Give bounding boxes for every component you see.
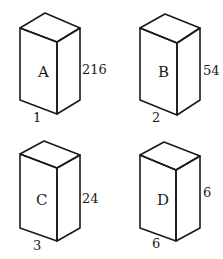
box-c-letter: C (36, 191, 47, 209)
box-b-height-dimension: 54 (203, 63, 220, 78)
box-a-side-face (57, 28, 80, 114)
box-a: A2161 (20, 13, 107, 125)
boxes-diagram: A2161B542C243D66 (0, 0, 223, 259)
box-d-base-dimension: 6 (152, 236, 160, 251)
box-b: B542 (140, 14, 220, 125)
box-c-height-dimension: 24 (82, 191, 99, 206)
box-b-top-face (140, 14, 200, 43)
diagram-canvas: A2161B542C243D66 A 216 1 B 54 2 C 24 3 D… (0, 0, 223, 259)
box-c-top-face (20, 141, 80, 168)
box-a-height-dimension: 216 (82, 62, 107, 77)
box-a-letter: A (37, 63, 49, 81)
box-c: C243 (20, 141, 99, 253)
box-d-side-face (176, 156, 200, 241)
box-d-height-dimension: 6 (203, 185, 211, 200)
box-a-top-face (20, 13, 80, 42)
box-a-base-dimension: 1 (33, 110, 41, 125)
box-c-base-dimension: 3 (33, 238, 41, 253)
box-d-letter: D (157, 191, 169, 209)
box-b-letter: B (158, 63, 169, 81)
box-c-side-face (57, 155, 80, 241)
box-b-side-face (177, 28, 200, 115)
box-b-base-dimension: 2 (152, 110, 160, 125)
box-d-top-face (140, 142, 200, 170)
box-d: D66 (140, 142, 211, 251)
